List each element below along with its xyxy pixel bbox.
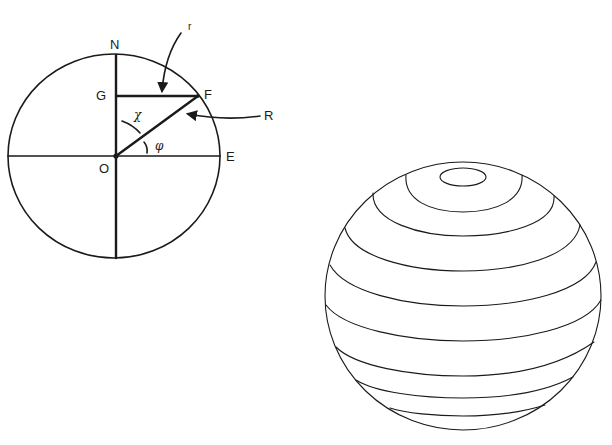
f-point	[196, 94, 200, 98]
label-f: F	[204, 87, 212, 102]
label-n: N	[110, 37, 119, 52]
circle-cross-section-diagram: N E O G F r R χ φ	[8, 21, 273, 258]
label-o: O	[99, 161, 109, 176]
latitude-band-1	[406, 175, 522, 212]
big-r-arrow	[188, 114, 260, 118]
label-phi: φ	[155, 139, 164, 153]
label-e: E	[226, 149, 235, 164]
label-big-r: R	[264, 108, 273, 123]
latitude-band-3	[345, 225, 580, 271]
latitude-band-6	[336, 342, 594, 376]
small-r-arrow	[162, 33, 181, 91]
sphere-outline	[325, 162, 601, 430]
latitude-band-2	[373, 193, 554, 236]
origin-point	[113, 153, 118, 158]
latitude-band-4	[330, 262, 596, 306]
label-small-r: r	[188, 21, 192, 32]
latitude-band-8	[390, 405, 545, 416]
sphere-latitude-diagram	[325, 162, 601, 430]
latitude-band-7	[356, 377, 573, 398]
label-chi: χ	[133, 108, 142, 122]
chi-angle-arc	[122, 121, 140, 133]
polar-cap	[440, 168, 486, 186]
figure-canvas: N E O G F r R χ φ	[0, 0, 612, 445]
phi-angle-arc	[144, 142, 147, 153]
label-g: G	[96, 88, 106, 103]
